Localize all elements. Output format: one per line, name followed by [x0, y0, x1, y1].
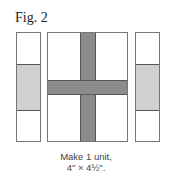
caption-line-2: 4" × 4½".	[0, 162, 172, 173]
caption-line-1: Make 1 unit,	[0, 151, 172, 162]
center-block	[47, 32, 128, 142]
left-strip-light-segment	[17, 64, 40, 111]
left-strip	[16, 32, 41, 142]
right-strip	[135, 32, 160, 142]
figure-title: Fig. 2	[15, 10, 48, 26]
right-strip-light-segment	[136, 64, 159, 111]
horizontal-dark-bar	[48, 80, 127, 95]
